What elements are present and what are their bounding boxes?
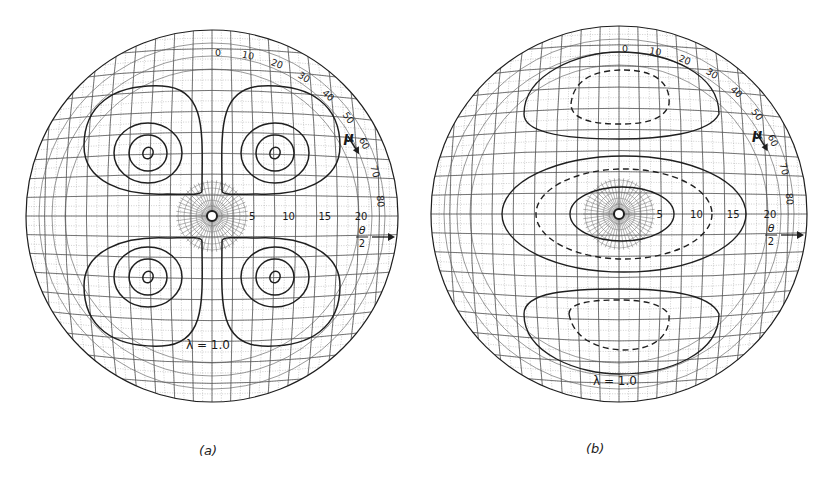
theta-scale-b: 5101520θ2 <box>657 209 804 247</box>
theta-tick-label: 5 <box>657 209 663 220</box>
theta-axis-label: θ <box>359 224 366 237</box>
mu-tick-label: 80 <box>784 192 796 205</box>
lambda-label-a: λ = 1.0 <box>186 338 230 352</box>
contour-ring <box>256 259 294 295</box>
polar-contour-figure: 01020304050607080μ5101520θ2λ = 1.0010203… <box>0 0 831 486</box>
mu-tick-label: 0 <box>215 47 221 58</box>
mu-tick-label: 10 <box>648 45 662 58</box>
contour-ring <box>129 135 167 171</box>
caption-a: (a) <box>199 443 217 458</box>
mu-tick-label: 40 <box>728 84 744 100</box>
mu-scale-a: 01020304050607080μ <box>215 47 387 208</box>
theta-tick-label: 10 <box>690 209 703 220</box>
mu-tick-label: 80 <box>375 195 387 208</box>
theta-tick-label: 10 <box>282 211 295 222</box>
theta-tick-label: 5 <box>249 211 255 222</box>
mu-tick-label: 40 <box>320 87 336 103</box>
theta-tick-label: 15 <box>318 211 331 222</box>
svg-text:2: 2 <box>359 238 365 249</box>
contour-core <box>141 145 155 160</box>
lambda-label-b: λ = 1.0 <box>593 374 637 388</box>
contour-ring <box>114 123 182 183</box>
theta-scale-a: 5101520θ2 <box>249 211 395 249</box>
contour-core <box>268 269 282 284</box>
contour-ring <box>241 123 309 183</box>
center-hub-a <box>176 180 248 252</box>
theta-tick-label: 20 <box>764 209 777 220</box>
contour-lobe-outer <box>84 238 202 347</box>
mu-tick-label: 20 <box>677 52 692 67</box>
theta-tick-label: 15 <box>727 209 740 220</box>
contour-lobe-outer <box>222 86 340 195</box>
contour-lobe-outer <box>84 86 202 195</box>
mu-tick-label: 0 <box>622 43 628 54</box>
mu-tick-label: 10 <box>241 49 255 62</box>
theta-tick-label: 20 <box>355 211 368 222</box>
contour-core <box>141 269 155 284</box>
contour-ring <box>256 135 294 171</box>
theta-axis-label: θ <box>768 222 775 235</box>
caption-b: (b) <box>586 441 604 456</box>
contour-lobe-outer <box>222 238 340 347</box>
contour-core <box>268 145 282 160</box>
mu-tick-label: 20 <box>269 56 284 71</box>
contour-top-dashed <box>571 70 669 124</box>
figure: 01020304050607080μ5101520θ2λ = 1.0010203… <box>0 0 831 486</box>
svg-text:2: 2 <box>768 236 774 247</box>
contour-ring <box>129 259 167 295</box>
